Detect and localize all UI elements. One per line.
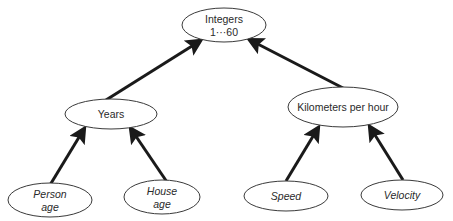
nodes-layer: Integers1···60YearsKilometers per hourPe… bbox=[8, 8, 443, 217]
node-years: Years bbox=[65, 99, 157, 129]
node-label: Person bbox=[33, 188, 66, 200]
type-hierarchy-diagram: Integers1···60YearsKilometers per hourPe… bbox=[0, 0, 453, 221]
node-kmh: Kilometers per hour bbox=[288, 87, 398, 127]
arrow-kmh-to-integers bbox=[250, 40, 343, 88]
node-label: House bbox=[147, 185, 178, 197]
node-label: Kilometers per hour bbox=[297, 101, 389, 113]
node-integers: Integers1···60 bbox=[182, 8, 266, 42]
arrow-velocity-to-kmh bbox=[370, 127, 403, 180]
node-label: age bbox=[153, 198, 171, 210]
node-label: Speed bbox=[271, 190, 303, 202]
node-label: Years bbox=[98, 108, 124, 120]
node-speed: Speed bbox=[244, 181, 328, 211]
arrow-speed-to-kmh bbox=[286, 128, 318, 181]
node-label: age bbox=[41, 201, 59, 213]
node-person-age: Personage bbox=[8, 183, 92, 217]
node-velocity: Velocity bbox=[361, 180, 443, 210]
arrow-house_age-to-years bbox=[131, 129, 167, 182]
node-label: Integers bbox=[205, 13, 243, 25]
node-label: 1···60 bbox=[210, 26, 238, 38]
node-house-age: Houseage bbox=[124, 180, 200, 214]
node-label: Velocity bbox=[384, 189, 421, 201]
arrow-years-to-integers bbox=[106, 41, 200, 100]
arrow-person_age-to-years bbox=[50, 129, 84, 185]
